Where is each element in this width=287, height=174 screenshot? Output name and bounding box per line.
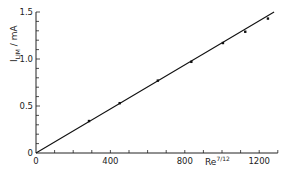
- data-point: [244, 31, 246, 33]
- x-tick-label: 400: [102, 156, 118, 166]
- y-tick-label: 1.5: [19, 7, 33, 17]
- data-point: [267, 17, 269, 19]
- fit-line: [36, 12, 274, 153]
- y-tick-label: 0.5: [19, 101, 33, 111]
- y-tick-label: 1.0: [19, 54, 33, 64]
- y-tick-label: 0: [28, 148, 33, 158]
- y-axis-title: ILIM / mA: [9, 25, 21, 62]
- x-tick-label: 800: [177, 156, 193, 166]
- chart: 0400800120000.51.01.5 ILIM / mA Re7/12: [0, 0, 287, 174]
- series: [36, 12, 274, 153]
- x-tick-label: 1200: [248, 156, 270, 166]
- x-tick-label: 0: [33, 156, 38, 166]
- tick-labels: 0400800120000.51.01.5: [19, 7, 270, 166]
- x-axis-title: Re7/12: [205, 155, 230, 167]
